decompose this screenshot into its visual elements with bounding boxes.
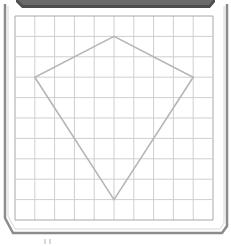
faint-caption-mark — [44, 239, 56, 244]
top-panel-bar — [16, 0, 215, 8]
diagram-canvas — [0, 0, 231, 246]
grid — [15, 16, 213, 220]
